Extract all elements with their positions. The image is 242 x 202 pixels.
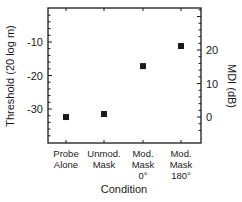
data-points (63, 43, 184, 120)
y-tick-label: -30 (27, 103, 43, 115)
y2-tick-label: 20 (206, 44, 218, 56)
x-category-label: Unmod. (87, 148, 120, 159)
x-category-label: Mask (93, 159, 116, 170)
threshold-chart: -10-20-30 20100 ProbeAloneUnmod.MaskMod.… (0, 0, 242, 202)
data-point-square (101, 111, 107, 117)
y2-tick-label: 10 (206, 78, 218, 90)
data-point-square (63, 114, 69, 120)
x-axis-title: Condition (101, 183, 147, 195)
x-category-label: Probe (53, 148, 78, 159)
y-axis-title: Threshold (20 log m) (4, 25, 16, 127)
x-category-label: Mod. (132, 148, 153, 159)
right-y-axis: 20100 (197, 10, 218, 131)
y-tick-label: -20 (27, 70, 43, 82)
x-category-label: Mod. (170, 148, 191, 159)
x-category-label: 0° (138, 170, 147, 181)
x-axis: ProbeAloneUnmod.MaskMod.Mask0°Mod.Mask18… (53, 8, 192, 181)
data-point-square (140, 63, 146, 69)
x-category-label: 180° (171, 170, 191, 181)
plot-border (48, 8, 201, 143)
data-point-square (178, 43, 184, 49)
y2-axis-title: MDI (dB) (226, 64, 238, 108)
x-category-label: Mask (132, 159, 155, 170)
x-category-label: Alone (54, 159, 78, 170)
y-tick-label: -10 (27, 36, 43, 48)
plot-frame (48, 8, 201, 143)
y2-tick-label: 0 (206, 111, 212, 123)
x-category-label: Mask (170, 159, 193, 170)
